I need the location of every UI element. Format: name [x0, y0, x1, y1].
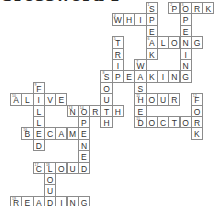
grid-cell[interactable]: H: [112, 105, 124, 117]
cell-letter: E: [22, 198, 32, 206]
cell-letter: N: [169, 72, 179, 82]
cell-letter: K: [203, 4, 213, 14]
grid-cell[interactable]: R: [168, 93, 180, 105]
cell-letter: U: [68, 164, 78, 174]
grid-cell[interactable]: I: [134, 13, 146, 25]
cell-letter: G: [181, 72, 191, 82]
cell-letter: C: [158, 118, 168, 128]
cell-letter: E: [56, 95, 66, 105]
cell-letter: U: [158, 95, 168, 105]
grid-cell[interactable]: L: [21, 93, 33, 105]
grid-cell[interactable]: K: [146, 48, 158, 60]
cell-letter: O: [169, 38, 179, 48]
cell-letter: I: [135, 15, 145, 25]
grid-cell[interactable]: G: [180, 70, 192, 82]
grid-cell[interactable]: O: [168, 36, 180, 48]
cell-letter: D: [34, 141, 44, 151]
cell-letter: L: [158, 38, 168, 48]
cell-letter: O: [181, 118, 191, 128]
cell-letter: A: [34, 198, 44, 206]
grid-cell[interactable]: E: [123, 70, 135, 82]
grid-cell[interactable]: H: [100, 116, 112, 128]
cell-letter: A: [56, 129, 66, 139]
cell-letter: D: [135, 118, 145, 128]
cell-letter: N: [68, 198, 78, 206]
cell-letter: R: [11, 198, 21, 206]
cell-letter: R: [169, 95, 179, 105]
grid-cell[interactable]: G: [78, 196, 90, 206]
cell-letter: G: [79, 198, 89, 206]
grid-cell[interactable]: K: [202, 2, 214, 14]
crossword-grid: 1SPE6AK2P3ORKPENING4WHI5TRIPLOG7WAS11HE1…: [0, 0, 215, 206]
cell-letter: G: [192, 38, 202, 48]
grid-cell[interactable]: N: [168, 70, 180, 82]
cell-letter: B: [22, 129, 32, 139]
cell-letter: H: [124, 15, 134, 25]
grid-cell[interactable]: O: [180, 116, 192, 128]
grid-cell[interactable]: M: [67, 127, 79, 139]
cell-letter: H: [101, 118, 111, 128]
cell-letter: T: [169, 118, 179, 128]
cell-letter: E: [124, 72, 134, 82]
cell-letter: O: [56, 164, 66, 174]
cell-letter: K: [147, 50, 157, 60]
grid-cell[interactable]: D: [78, 162, 90, 174]
cell-letter: H: [113, 107, 123, 117]
grid-cell[interactable]: A: [33, 196, 45, 206]
grid-cell[interactable]: R: [89, 105, 101, 117]
cell-letter: A: [11, 95, 21, 105]
cell-letter: N: [68, 107, 78, 117]
cell-letter: K: [192, 129, 202, 139]
cell-letter: L: [22, 95, 32, 105]
grid-cell[interactable]: G: [191, 36, 203, 48]
cell-letter: P: [113, 72, 123, 82]
cell-letter: D: [45, 198, 55, 206]
grid-cell[interactable]: D: [33, 139, 45, 151]
cell-letter: P: [169, 4, 179, 14]
cell-letter: I: [158, 72, 168, 82]
cell-letter: V: [45, 95, 55, 105]
grid-cell[interactable]: U: [67, 162, 79, 174]
grid-cell[interactable]: 16B: [21, 127, 33, 139]
cell-letter: C: [45, 129, 55, 139]
grid-cell[interactable]: K: [191, 127, 203, 139]
cell-letter: R: [90, 107, 100, 117]
cell-letter: O: [147, 95, 157, 105]
cell-letter: D: [79, 164, 89, 174]
cell-letter: R: [192, 4, 202, 14]
cell-letter: C: [34, 164, 44, 174]
cell-letter: W: [113, 15, 123, 25]
cell-letter: I: [56, 198, 66, 206]
cell-letter: K: [147, 72, 157, 82]
cell-letter: M: [68, 129, 78, 139]
cell-letter: O: [147, 118, 157, 128]
